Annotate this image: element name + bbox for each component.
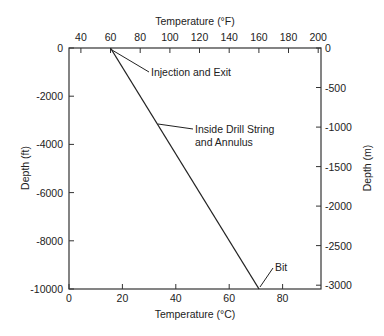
x-axis-top-title: Temperature (°F) <box>155 15 234 27</box>
svg-text:-2000: -2000 <box>36 90 63 102</box>
svg-text:160: 160 <box>250 31 268 43</box>
svg-text:0: 0 <box>325 42 331 54</box>
svg-text:40: 40 <box>170 292 182 304</box>
svg-text:-2000: -2000 <box>325 200 352 212</box>
svg-text:40: 40 <box>75 31 87 43</box>
svg-text:20: 20 <box>117 292 129 304</box>
svg-text:120: 120 <box>191 31 209 43</box>
y-axis-right <box>316 48 321 285</box>
svg-text:80: 80 <box>134 31 146 43</box>
svg-text:-1000: -1000 <box>325 121 352 133</box>
annotation-bit: Bit <box>275 261 287 273</box>
svg-text:-500: -500 <box>325 82 346 94</box>
svg-text:140: 140 <box>220 31 238 43</box>
y-axis-right-labels: 0 -500 -1000 -1500 -2000 -2500 -3000 <box>325 42 352 291</box>
y-axis-left-title: Depth (ft) <box>19 146 31 190</box>
svg-text:80: 80 <box>277 292 289 304</box>
bit-leader <box>260 268 273 287</box>
chart-root: 0 20 40 60 80 Temperature (°C) 40 60 80 … <box>0 0 384 336</box>
drill-string-leader <box>158 124 193 129</box>
svg-text:180: 180 <box>280 31 298 43</box>
annotation-drill-string-line1: Inside Drill String <box>195 123 275 135</box>
svg-text:100: 100 <box>161 31 179 43</box>
svg-text:-8000: -8000 <box>36 235 63 247</box>
y-axis-left <box>69 48 74 289</box>
svg-text:-10000: -10000 <box>30 283 63 295</box>
x-axis-bottom-labels: 0 20 40 60 80 <box>66 292 289 304</box>
svg-text:0: 0 <box>57 42 63 54</box>
x-axis-bottom-title: Temperature (°C) <box>155 308 236 320</box>
svg-text:60: 60 <box>105 31 117 43</box>
plot-frame <box>69 48 321 289</box>
y-axis-left-labels: 0 -2000 -4000 -6000 -8000 -10000 <box>30 42 63 295</box>
svg-text:-6000: -6000 <box>36 187 63 199</box>
y-axis-right-title: Depth (m) <box>361 145 373 192</box>
annotation-drill-string-line2: and Annulus <box>195 136 253 148</box>
x-axis-bottom <box>69 284 283 289</box>
svg-text:0: 0 <box>66 292 72 304</box>
annotation-injection: Injection and Exit <box>151 66 231 78</box>
svg-text:60: 60 <box>223 292 235 304</box>
x-axis-top-labels: 40 60 80 100 120 140 160 180 200 <box>75 31 327 43</box>
svg-text:-2500: -2500 <box>325 240 352 252</box>
injection-leader <box>112 50 149 72</box>
svg-text:-1500: -1500 <box>325 161 352 173</box>
svg-text:-3000: -3000 <box>325 279 352 291</box>
temperature-profile-line <box>111 48 260 289</box>
svg-text:-4000: -4000 <box>36 138 63 150</box>
